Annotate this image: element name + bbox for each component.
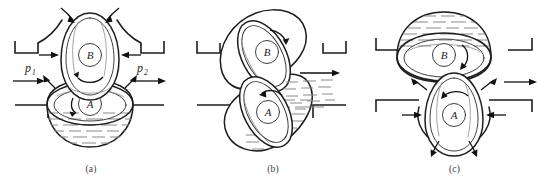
figure-container: A B bbox=[0, 0, 545, 190]
label-a: A bbox=[450, 109, 458, 121]
wall-bracket-upper-left bbox=[197, 41, 220, 53]
pressure-out-arrow-head bbox=[158, 78, 166, 84]
wall-bracket-upper-left bbox=[376, 38, 400, 50]
ejection-arrow-head bbox=[332, 70, 340, 76]
wall-bracket-upper-right bbox=[323, 41, 346, 53]
wall-bracket-lower-left bbox=[15, 105, 48, 118]
panel-b-drawing: B A bbox=[182, 0, 364, 170]
panel-c: B A bbox=[364, 0, 545, 190]
pressure-in-subscript: 1 bbox=[32, 68, 36, 77]
label-b: B bbox=[264, 46, 271, 58]
upper-right-flare bbox=[117, 20, 141, 43]
wall-bracket-upper-right bbox=[508, 38, 532, 50]
pressure-out-subscript: 2 bbox=[144, 68, 148, 77]
pressure-out-label: p bbox=[136, 61, 143, 75]
caption-c: (c) bbox=[364, 164, 545, 174]
wall-bracket-lower-right bbox=[489, 100, 532, 112]
panel-a: A B bbox=[0, 0, 182, 190]
pressure-in-group: p 1 bbox=[13, 61, 45, 84]
caption-b: (b) bbox=[182, 164, 364, 174]
caption-a: (a) bbox=[0, 164, 182, 174]
panel-b: B A (b) bbox=[182, 0, 364, 190]
pressure-out-group: p 2 bbox=[131, 61, 166, 84]
pressure-in-label: p bbox=[24, 61, 31, 75]
label-b: B bbox=[441, 49, 448, 61]
label-b: B bbox=[87, 49, 94, 61]
wall-bracket-upper-right bbox=[141, 41, 164, 53]
outflow-arrow-head bbox=[529, 79, 537, 85]
panel-c-drawing: B A bbox=[364, 0, 545, 170]
wall-bracket-lower-left bbox=[376, 100, 419, 112]
label-a: A bbox=[264, 106, 272, 118]
wall-bracket-lower-right bbox=[131, 105, 164, 118]
panel-a-drawing: A B bbox=[0, 0, 182, 170]
wall-bracket-upper-left bbox=[15, 41, 38, 53]
upper-left-flare bbox=[38, 20, 62, 43]
